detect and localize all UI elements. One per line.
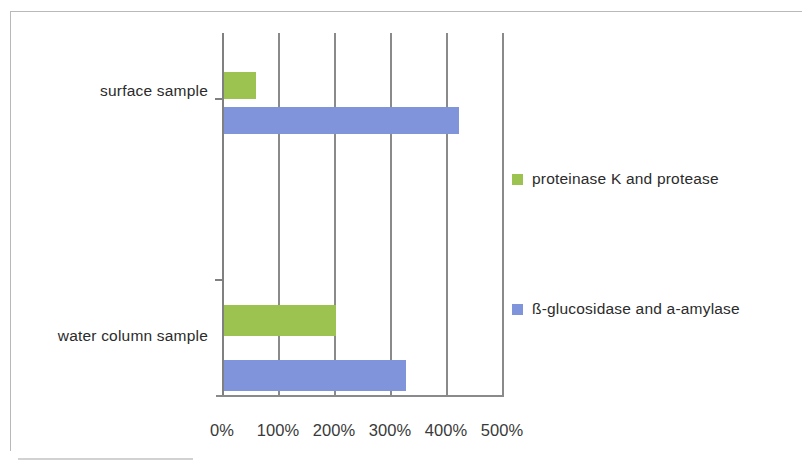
legend-swatch-icon: [512, 304, 523, 315]
x-axis-line: [216, 395, 504, 397]
legend-entry[interactable]: proteinase K and protease: [512, 170, 719, 188]
x-tick-label: 300%: [369, 421, 412, 440]
scan-frame-top-edge: [10, 11, 802, 12]
scan-frame-bottom-artifact: [18, 458, 193, 460]
chart-page: surface samplewater column sample 0%100%…: [0, 0, 809, 470]
gridline-200pct: [334, 33, 336, 395]
gridline-400pct: [446, 33, 448, 395]
legend-label: proteinase K and protease: [532, 170, 719, 188]
x-tick-label: 400%: [425, 421, 468, 440]
bar: [224, 72, 256, 99]
gridline-100pct: [278, 33, 280, 395]
bar: [224, 360, 406, 391]
plot-area: surface samplewater column sample: [222, 33, 502, 395]
y-axis-tickmark: [215, 279, 222, 281]
x-tick-label: 200%: [313, 421, 356, 440]
scan-frame-left-edge: [10, 11, 11, 451]
category-label-water-column-sample: water column sample: [58, 327, 208, 345]
legend-entry[interactable]: ß-glucosidase and a-amylase: [512, 300, 740, 318]
x-tick-label: 500%: [481, 421, 524, 440]
legend-swatch-icon: [512, 174, 523, 185]
x-tick-label: 0%: [210, 421, 234, 440]
bar: [224, 305, 336, 336]
gridline-500pct: [502, 33, 504, 395]
category-label-surface-sample: surface sample: [100, 82, 208, 100]
x-axis-tick-labels: 0%100%200%300%400%500%: [205, 421, 525, 447]
legend-label: ß-glucosidase and a-amylase: [532, 300, 740, 318]
x-tick-label: 100%: [257, 421, 300, 440]
bar: [224, 107, 459, 134]
gridline-300pct: [390, 33, 392, 395]
y-axis-tickmark: [215, 98, 222, 100]
